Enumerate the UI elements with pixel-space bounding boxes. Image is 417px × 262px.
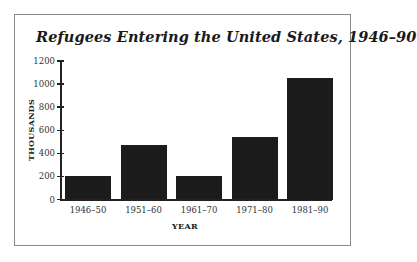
x-tick-label: 1946–50: [70, 205, 107, 215]
bar: [232, 137, 278, 199]
x-tick-label: 1961–70: [181, 205, 218, 215]
y-tick: [57, 106, 64, 108]
x-tick-label: 1971–80: [236, 205, 273, 215]
bar: [287, 78, 333, 199]
y-tick: [57, 60, 64, 62]
bar: [176, 176, 222, 199]
y-tick: [57, 153, 64, 155]
x-axis-label: YEAR: [172, 221, 198, 231]
y-tick-label: 0: [50, 195, 55, 205]
bar: [65, 176, 111, 199]
y-tick: [57, 199, 64, 201]
chart-title: Refugees Entering the United States, 194…: [36, 28, 417, 45]
y-tick: [57, 83, 64, 85]
y-tick: [57, 176, 64, 178]
y-tick-label: 600: [39, 125, 55, 135]
y-tick-label: 400: [39, 148, 55, 158]
y-tick-label: 200: [39, 171, 55, 181]
y-tick-label: 800: [39, 102, 55, 112]
bar: [121, 145, 167, 199]
y-tick-label: 1000: [33, 79, 55, 89]
y-axis-label: THOUSANDS: [26, 99, 36, 161]
x-tick-label: 1951–60: [125, 205, 162, 215]
y-tick-label: 1200: [33, 56, 55, 66]
x-tick-label: 1981–90: [292, 205, 329, 215]
y-tick: [57, 130, 64, 132]
